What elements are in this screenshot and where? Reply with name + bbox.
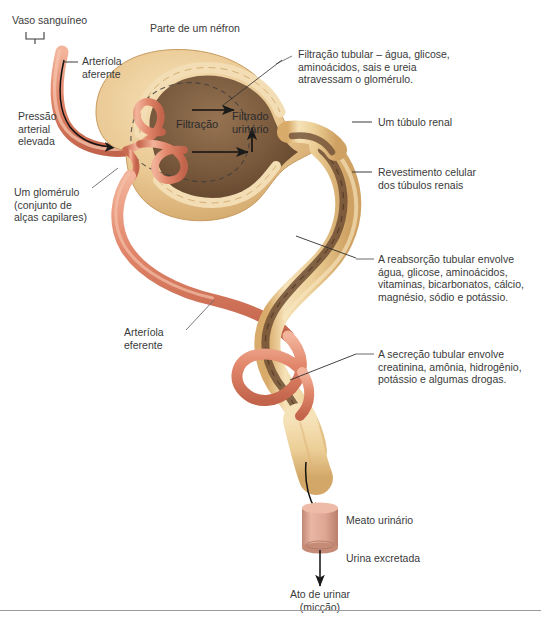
label-filtracao: Filtração: [176, 118, 218, 131]
leader-glomerulus: [92, 168, 118, 188]
bottom-divider: [0, 610, 541, 611]
label-secrecao-tubular: A secreção tubular envolve creatinina, a…: [378, 348, 522, 386]
urinary-meatus-shape: [302, 503, 338, 554]
label-revestimento-celular: Revestimento celular dos túbulos renais: [378, 166, 476, 191]
label-um-glomerulo: Um glomérulo (conjunto de alças capilare…: [14, 186, 87, 224]
label-arteriola-aferente: Arteríola aferente: [82, 55, 122, 80]
nephron-illustration: [0, 0, 541, 623]
vaso-sanguineo-bracket: [26, 32, 44, 39]
label-vaso-sanguineo: Vaso sanguíneo: [12, 14, 87, 27]
label-filtracao-tubular: Filtração tubular – água, glicose, amino…: [298, 48, 450, 86]
label-parte-nefron: Parte de um néfron: [150, 22, 240, 35]
label-um-tubulo-renal: Um túbulo renal: [378, 116, 452, 129]
label-arteriola-eferente: Arteríola eferente: [124, 326, 164, 351]
label-filtrado-urinario: Filtrado urinário: [232, 110, 269, 136]
label-pressao-arterial: Pressão arterial elevada: [18, 110, 57, 148]
diagram-canvas: Vaso sanguíneo Arteríola aferente Pressã…: [0, 0, 541, 623]
leader-efferent: [186, 300, 214, 330]
label-meato-urinario: Meato urinário: [346, 514, 413, 527]
label-urina-excretada: Urina excretada: [346, 552, 420, 565]
label-reabsorcao-tubular: A reabsorção tubular envolve água, glico…: [378, 253, 524, 303]
